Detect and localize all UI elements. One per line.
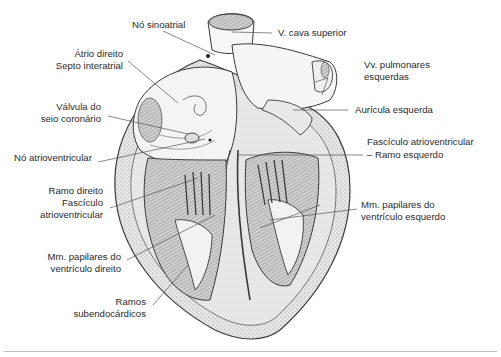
bottom-divider <box>4 351 497 352</box>
label-ramos: Ramos <box>116 296 146 308</box>
heart-conduction-diagram: Nó sinoatrial Átrio direito Septo intera… <box>0 0 501 357</box>
label-fasciculo-esq-line2: – Ramo esquerdo <box>367 149 443 161</box>
sinoatrial-node <box>206 54 210 58</box>
label-valvula-line1: Válvula do <box>56 101 101 113</box>
label-mm-papilares-vd-line1: Mm. papilares do <box>47 251 121 263</box>
label-subendocardicos: subendocárdicos <box>73 308 146 320</box>
label-valvula-line2: seio coronário <box>41 113 101 125</box>
label-ramo-direito: Ramo direito <box>49 185 103 197</box>
label-v-cava-superior: V. cava superior <box>278 27 346 39</box>
label-mm-papilares-ve-line1: Mm. papilares do <box>361 199 435 211</box>
label-no-sinoatrial: Nó sinoatrial <box>132 19 185 31</box>
label-fasciculo-esq-line1: Fascículo atrioventricular <box>367 136 474 148</box>
label-atrio-direito: Átrio direito <box>74 48 123 60</box>
label-mm-papilares-ve-line2: ventrículo esquerdo <box>361 211 445 223</box>
label-vv-pulmonares-line1: Vv. pulmonares <box>364 59 430 71</box>
label-fasciculo: Fascículo <box>62 197 103 209</box>
label-atrioventricular: atrioventricular <box>40 209 103 221</box>
label-septo-interatrial: Septo interatrial <box>56 60 123 72</box>
label-auricula-esquerda: Aurícula esquerda <box>355 104 433 116</box>
label-vv-pulmonares-line2: esquerdas <box>364 71 409 83</box>
label-mm-papilares-vd-line2: ventrículo direito <box>51 263 121 275</box>
label-no-atrioventricular: Nó atrioventricular <box>14 152 92 164</box>
